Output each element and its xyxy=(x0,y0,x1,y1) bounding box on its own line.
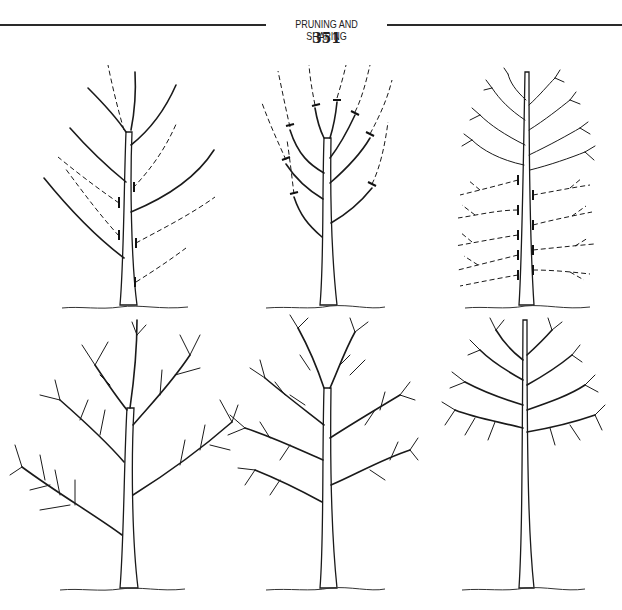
figure-bottom-left-tree xyxy=(0,310,240,595)
page-number: 351 xyxy=(266,30,387,46)
figure-top-right-tree xyxy=(420,60,622,315)
tree-illustration-1 xyxy=(0,60,240,315)
tree-illustration-2 xyxy=(220,60,420,315)
figure-top-left-tree xyxy=(0,60,240,315)
header-rule-right xyxy=(387,24,622,26)
figure-bottom-right-tree xyxy=(420,310,622,595)
tree-illustration-6 xyxy=(420,310,622,595)
tree-illustration-4 xyxy=(0,310,240,595)
figure-top-center-tree xyxy=(220,60,420,315)
figure-bottom-center-tree xyxy=(220,310,420,595)
header-rule-left xyxy=(0,24,266,26)
tree-illustration-3 xyxy=(420,60,622,315)
tree-illustration-5 xyxy=(220,310,420,595)
figure-caption-partial xyxy=(0,603,622,610)
